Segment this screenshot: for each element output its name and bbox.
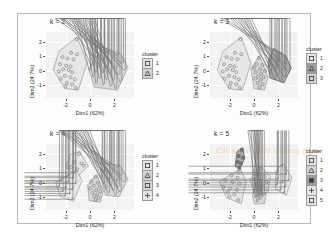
y-axis-tick-mark — [207, 168, 209, 169]
y-axis-tick-mark — [43, 85, 45, 86]
y-axis-label: Dim2 (24.7%) — [193, 65, 199, 98]
y-axis-tick-label: 1 — [30, 165, 42, 171]
x-axis-tick-mark — [278, 99, 279, 101]
x-axis-tick-label: -2 — [223, 214, 237, 220]
legend-item-label: 1 — [156, 161, 159, 170]
legend-item[interactable]: 1 — [142, 161, 176, 170]
y-axis-tick-mark — [207, 85, 209, 86]
legend: cluster12345 — [306, 148, 328, 205]
y-axis-tick-label: 2 — [194, 151, 206, 157]
legend-item-label: 4 — [156, 191, 159, 200]
y-axis-tick-label: 2 — [30, 151, 42, 157]
x-axis-label: Dim1 (62%) — [210, 110, 298, 116]
y-axis-label: Dim2 (24.7%) — [29, 177, 35, 210]
legend-item[interactable]: 1 — [142, 59, 176, 68]
y-axis-tick-mark — [207, 71, 209, 72]
legend-item-label: 2 — [320, 64, 323, 73]
legend-key-triangle-icon — [142, 68, 153, 79]
legend-item-label: 4 — [320, 186, 323, 195]
y-axis-tick-mark — [207, 56, 209, 57]
x-axis-tick-label: 0 — [83, 214, 97, 220]
legend-item[interactable]: 2 — [306, 64, 328, 73]
cluster-panel: k = 2210-1-202Dim1 (62%)Dim2 (24.7%)clus… — [24, 18, 171, 123]
legend-title: cluster — [306, 46, 328, 52]
y-axis-tick-label: 2 — [194, 39, 206, 45]
y-axis-tick-mark — [43, 197, 45, 198]
y-axis-tick-mark — [207, 183, 209, 184]
x-axis-tick-label: 0 — [247, 102, 261, 108]
x-axis-tick-mark — [66, 99, 67, 101]
legend-item-list: 1234 — [142, 161, 176, 200]
x-axis-tick-mark — [90, 211, 91, 213]
legend-key-square-icon — [306, 195, 317, 206]
legend-item[interactable]: 4 — [306, 186, 328, 195]
legend-item[interactable]: 1 — [306, 54, 328, 63]
x-axis-tick-mark — [114, 211, 115, 213]
x-axis-tick-label: 2 — [107, 214, 121, 220]
y-axis-tick-label: 1 — [30, 53, 42, 59]
x-axis-tick-mark — [230, 99, 231, 101]
legend: cluster12 — [142, 51, 176, 78]
legend-item[interactable]: 2 — [142, 69, 176, 78]
legend-key-square-icon — [306, 73, 317, 84]
x-axis-tick-mark — [278, 211, 279, 213]
legend-item-label: 2 — [320, 166, 323, 175]
legend-item[interactable]: 2 — [142, 171, 176, 180]
figure-root: k = 2210-1-202Dim1 (62%)Dim2 (24.7%)clus… — [0, 0, 328, 237]
x-axis-tick-mark — [90, 99, 91, 101]
legend-item[interactable]: 5 — [306, 196, 328, 205]
y-axis-tick-label: 1 — [194, 53, 206, 59]
legend-item-label: 1 — [156, 59, 159, 68]
cluster-panel: k = 5Cluster plot using dim210-1-202Dim1… — [188, 130, 328, 235]
cluster-panel: k = 4210-1-202Dim1 (62%)Dim2 (24.7%)clus… — [24, 130, 171, 235]
x-axis-tick-label: 2 — [271, 214, 285, 220]
legend-item-label: 3 — [156, 181, 159, 190]
y-axis-tick-mark — [43, 183, 45, 184]
legend-item[interactable]: 3 — [306, 74, 328, 83]
legend-item[interactable]: 3 — [142, 181, 176, 190]
x-axis-tick-label: -2 — [59, 214, 73, 220]
x-axis-tick-mark — [230, 211, 231, 213]
legend-item[interactable]: 3 — [306, 176, 328, 185]
y-axis-label: Dim2 (24.7%) — [29, 65, 35, 98]
legend: cluster1234 — [142, 153, 176, 200]
legend-item-label: 3 — [320, 176, 323, 185]
legend-title: cluster — [142, 51, 176, 57]
x-axis-tick-label: 2 — [107, 102, 121, 108]
x-axis-tick-mark — [254, 211, 255, 213]
x-axis-label: Dim1 (62%) — [46, 222, 134, 228]
cluster-panel: k = 3210-1-202Dim1 (62%)Dim2 (24.7%)clus… — [188, 18, 328, 123]
y-axis-tick-label: 2 — [30, 39, 42, 45]
x-axis-tick-label: 2 — [271, 102, 285, 108]
legend-item-label: 1 — [320, 156, 323, 165]
legend-item-list: 123 — [306, 54, 328, 83]
legend-title: cluster — [142, 153, 176, 159]
x-axis-tick-mark — [66, 211, 67, 213]
legend-item[interactable]: 2 — [306, 166, 328, 175]
x-axis-tick-label: -2 — [59, 102, 73, 108]
x-axis-tick-label: 0 — [247, 214, 261, 220]
legend-item[interactable]: 1 — [306, 156, 328, 165]
legend: cluster123 — [306, 46, 328, 83]
y-axis-label: Dim2 (24.7%) — [193, 177, 199, 210]
legend-key-plus-icon — [142, 190, 153, 201]
y-axis-tick-mark — [43, 42, 45, 43]
legend-item-label: 2 — [156, 171, 159, 180]
x-axis-tick-mark — [114, 99, 115, 101]
x-axis-label: Dim1 (62%) — [46, 110, 134, 116]
legend-item-list: 12 — [142, 59, 176, 78]
legend-item[interactable]: 4 — [142, 191, 176, 200]
y-axis-tick-mark — [43, 168, 45, 169]
y-axis-tick-mark — [207, 42, 209, 43]
x-axis-label: Dim1 (62%) — [210, 222, 298, 228]
legend-item-label: 5 — [320, 196, 323, 205]
y-axis-tick-label: 1 — [194, 165, 206, 171]
y-axis-tick-mark — [207, 197, 209, 198]
y-axis-tick-mark — [43, 56, 45, 57]
x-axis-tick-label: -2 — [223, 102, 237, 108]
legend-title: cluster — [306, 148, 328, 154]
y-axis-tick-mark — [43, 154, 45, 155]
legend-item-label: 2 — [156, 69, 159, 78]
legend-item-list: 12345 — [306, 156, 328, 205]
y-axis-tick-mark — [207, 154, 209, 155]
